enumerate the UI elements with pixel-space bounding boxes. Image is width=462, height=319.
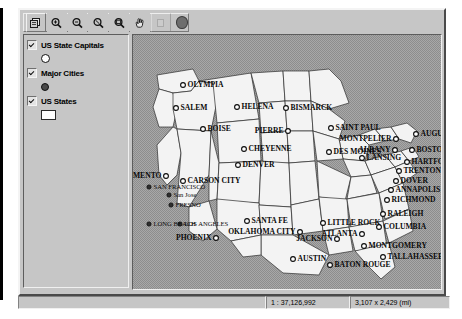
layer-checkbox-major-cities[interactable] (27, 68, 37, 78)
capital-marker[interactable] (329, 126, 334, 131)
capital-label: COLUMBIA (384, 222, 427, 231)
capital-label: MONTPELIER (340, 134, 392, 143)
capital-label: HELENA (242, 102, 275, 111)
city-label: LONG BEACH (154, 220, 197, 227)
layer-symbol-us-states (27, 108, 125, 121)
city-label: FRESNO (176, 201, 202, 208)
status-scale: 1 : 37,126,992 (266, 296, 350, 309)
capital-label: RICHMOND (392, 195, 436, 204)
capital-marker[interactable] (328, 263, 333, 268)
disabled-tool-icon (151, 13, 171, 32)
capital-marker[interactable] (385, 198, 390, 203)
zoom-previous-icon[interactable] (88, 13, 108, 32)
zoom-in-icon[interactable] (47, 13, 67, 32)
layer-item-major-cities[interactable]: Major Cities (27, 67, 125, 79)
capital-marker[interactable] (214, 236, 219, 241)
capital-label: MONTGOMERY (369, 241, 428, 250)
capital-marker[interactable] (394, 179, 399, 184)
layer-item-us-state-capitals[interactable]: US State Capitals (27, 39, 125, 51)
layer-label-major-cities: Major Cities (41, 69, 84, 78)
capital-marker[interactable] (410, 148, 415, 153)
layer-item-us-states[interactable]: US States (27, 95, 125, 107)
city-marker[interactable] (147, 185, 151, 189)
record-indicator (176, 16, 188, 29)
capital-label: CHEYENNE (249, 144, 292, 153)
map-canvas[interactable]: OLYMPIASALEMHELENABOISEBISMARCKPIERRESAI… (133, 35, 441, 289)
city-marker[interactable] (147, 222, 151, 226)
capital-marker[interactable] (242, 147, 247, 152)
layer-label-us-states: US States (41, 97, 77, 106)
map-window-frame: US State Capitals Major Cities US States (18, 8, 446, 296)
layer-symbol-major-cities (27, 80, 125, 93)
capital-marker[interactable] (394, 137, 399, 142)
white-polygon-icon (41, 110, 56, 120)
zoom-out-icon[interactable] (68, 13, 88, 32)
zoom-entire-layer-icon[interactable] (109, 13, 129, 32)
capital-label: SAINT PAUL (336, 123, 381, 132)
capital-label: OLYMPIA (188, 80, 225, 89)
layer-symbol-us-state-capitals (27, 52, 125, 65)
capital-marker[interactable] (286, 129, 291, 134)
capital-marker[interactable] (405, 160, 410, 165)
layer-checkbox-us-states[interactable] (27, 96, 37, 106)
capital-marker[interactable] (362, 244, 367, 249)
city-marker[interactable] (167, 193, 171, 197)
capital-label: PHOENIX (176, 233, 212, 242)
capital-marker[interactable] (181, 83, 186, 88)
capital-label: PIERRE (255, 126, 284, 135)
application-window: US State Capitals Major Cities US States (18, 8, 454, 308)
capital-label: OKLAHOMA CITY (228, 227, 296, 236)
open-circle-icon (41, 54, 50, 63)
city-marker[interactable] (169, 203, 173, 207)
capital-marker[interactable] (389, 188, 394, 193)
layer-checkbox-us-state-capitals[interactable] (27, 40, 37, 50)
capital-marker[interactable] (174, 106, 179, 111)
capital-marker[interactable] (360, 232, 365, 237)
map-view[interactable]: OLYMPIASALEMHELENABOISEBISMARCKPIERRESAI… (132, 34, 442, 290)
capital-marker[interactable] (321, 221, 326, 226)
capital-marker[interactable] (164, 174, 169, 179)
capital-marker[interactable] (393, 148, 398, 153)
capital-label: LANSING (367, 153, 402, 162)
capital-marker[interactable] (284, 106, 289, 111)
pan-hand-icon[interactable] (130, 13, 150, 32)
capital-label: LITTLE ROCK (328, 218, 381, 227)
capital-label: RALEIGH (388, 209, 424, 218)
capital-label: SALEM (181, 103, 208, 112)
capital-marker[interactable] (414, 132, 419, 137)
capital-marker[interactable] (381, 255, 386, 260)
capital-marker[interactable] (245, 219, 250, 224)
capital-label: AUSTIN (298, 254, 327, 263)
layer-label-us-state-capitals: US State Capitals (41, 41, 104, 50)
capital-marker[interactable] (360, 156, 365, 161)
capital-marker[interactable] (201, 127, 206, 132)
main-toolbar (23, 13, 189, 32)
layer-control-icon[interactable] (26, 13, 46, 32)
capital-marker[interactable] (397, 169, 402, 174)
capital-label: AUGUSTA (421, 129, 442, 138)
capital-label: BATON ROUGE (335, 260, 391, 269)
status-extent: 3,107 x 2,429 (mi) (350, 296, 450, 309)
capital-label: TRENTON (404, 166, 442, 175)
capital-label: SACRAMENTO (133, 171, 162, 180)
city-label: SAN FRANCISCO (154, 183, 206, 190)
capital-label: BOISE (208, 124, 231, 133)
capital-marker[interactable] (381, 212, 386, 217)
city-label: San Jose (174, 191, 197, 198)
capital-label: TALLAHASSEE (388, 252, 442, 261)
capital-marker[interactable] (291, 257, 296, 262)
capital-label: JACKSON (296, 234, 333, 243)
filled-dot-icon (41, 83, 49, 91)
capital-label: BISMARCK (291, 103, 333, 112)
window-left-edge (0, 8, 3, 300)
layer-control-panel: US State Capitals Major Cities US States (23, 34, 129, 288)
capital-marker[interactable] (327, 150, 332, 155)
capital-marker[interactable] (235, 105, 240, 110)
capital-label: ANNAPOLIS (396, 185, 441, 194)
capital-label: DOVER (401, 176, 429, 185)
capital-label: BOSTON (417, 145, 442, 154)
status-message (18, 296, 266, 309)
capital-marker[interactable] (236, 163, 241, 168)
status-bar: 1 : 37,126,992 3,107 x 2,429 (mi) (18, 296, 454, 309)
capital-label: DENVER (243, 160, 276, 169)
